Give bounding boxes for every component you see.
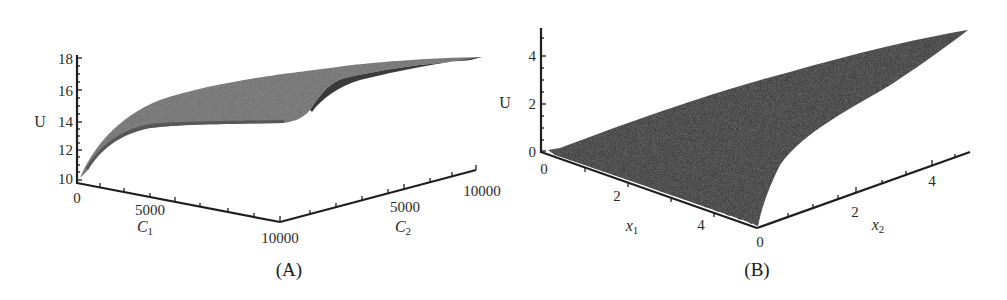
x-axis-title-b: x1 bbox=[625, 217, 639, 236]
y-axis-a bbox=[280, 170, 476, 222]
y-tick-label-b: 0 bbox=[756, 234, 764, 250]
panel-label-a: (A) bbox=[276, 259, 302, 281]
z-tick-label-a: 16 bbox=[58, 83, 74, 99]
z-tick-label-a: 10 bbox=[58, 171, 73, 187]
x-tick-label-b: 0 bbox=[540, 161, 548, 177]
y-axis-b bbox=[757, 152, 970, 228]
x-tick-label-a: 5000 bbox=[135, 202, 165, 218]
y-axis-title-b: x2 bbox=[871, 216, 885, 235]
figure-canvas: 18 16 14 12 10 U 0 5000 10000 C1 bbox=[0, 0, 1007, 300]
y-tick-label-a: 10000 bbox=[463, 183, 501, 199]
y-tick-label-a: 5000 bbox=[390, 199, 420, 215]
x-tick-label-b: 4 bbox=[697, 217, 705, 233]
z-tick-label-a: 18 bbox=[58, 51, 73, 67]
z-tick-label-a: 12 bbox=[58, 142, 73, 158]
x-tick-label-a: 10000 bbox=[261, 230, 299, 246]
surface-a-top bbox=[80, 57, 482, 178]
z-tick-label-b: 0 bbox=[529, 144, 537, 160]
panel-b: 4 2 0 U 0 2 4 x1 0 2 4 x2 bbox=[499, 28, 970, 281]
z-axis-title-b: U bbox=[499, 94, 511, 111]
x-tick-label-a: 0 bbox=[73, 190, 81, 206]
z-tick-label-b: 4 bbox=[529, 48, 537, 64]
panel-a: 18 16 14 12 10 U 0 5000 10000 C1 bbox=[34, 51, 501, 281]
x-tick-label-b: 2 bbox=[613, 188, 621, 204]
z-axis-title-a: U bbox=[34, 113, 46, 130]
z-tick-label-a: 14 bbox=[58, 114, 74, 130]
x-axis-a bbox=[77, 183, 280, 222]
surface-b bbox=[548, 30, 968, 226]
x-axis-title-a: C1 bbox=[137, 218, 153, 237]
y-tick-label-b: 4 bbox=[928, 173, 936, 189]
y-axis-title-a: C2 bbox=[395, 218, 411, 237]
panel-label-b: (B) bbox=[744, 259, 769, 281]
y-tick-label-b: 2 bbox=[851, 204, 859, 220]
z-tick-label-b: 2 bbox=[529, 96, 537, 112]
